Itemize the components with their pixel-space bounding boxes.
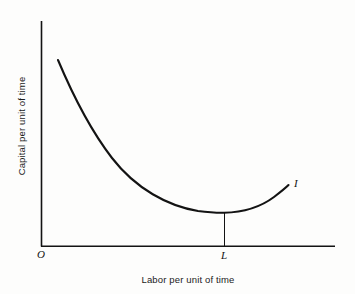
x-tick-label-L: L xyxy=(221,250,227,261)
isoquant-curve xyxy=(58,60,289,213)
plot-area xyxy=(0,0,355,294)
x-axis-title: Labor per unit of time xyxy=(141,275,234,285)
origin-label: O xyxy=(37,249,45,260)
isoquant-figure: Capital per unit of time Labor per unit … xyxy=(0,0,355,294)
isoquant-curve-label: I xyxy=(294,178,298,189)
y-axis-title: Capital per unit of time xyxy=(17,77,27,176)
